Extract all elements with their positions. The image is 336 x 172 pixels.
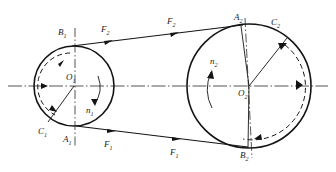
pulley-right-arc-arrowhead-bottom [254, 134, 262, 140]
label-a1: A1 [62, 134, 72, 146]
belt-lower-arrowhead-left [107, 129, 116, 133]
label-a2: A2 [233, 12, 243, 24]
pulley-left-radius-to-c1 [48, 86, 74, 122]
diagram-canvas: B1 O1 n1 C1 A1 A2 C2 n2 [0, 0, 336, 172]
label-c2: C2 [271, 17, 280, 29]
pulley-left-arc-arrowhead-top [58, 60, 64, 67]
label-f2-left: F2 [100, 24, 110, 36]
label-f2-right: F2 [166, 16, 176, 28]
label-n1: n1 [86, 105, 94, 117]
pulley-right-radius-to-b2 [248, 86, 249, 148]
belt-drive-figure: B1 O1 n1 C1 A1 A2 C2 n2 [0, 0, 336, 172]
belt-upper-arrowhead-right [170, 32, 179, 37]
pulley-left-rotation-arrowhead [91, 99, 98, 106]
pulley-left-arc-arrowhead-mid [41, 83, 48, 89]
pulley-right-rotation-arrowhead [207, 70, 214, 79]
belt-lower-span [76, 126, 248, 147]
belt-upper-span [72, 25, 243, 46]
pulley-right-arc-arrowhead-top [278, 43, 287, 50]
label-f1-right: F1 [169, 147, 179, 159]
belt-upper-arrowhead-left [104, 40, 113, 45]
label-o2: O2 [238, 88, 248, 100]
belt-lower-arrowhead-right [172, 137, 181, 141]
label-b2: B2 [240, 150, 249, 162]
label-f1-left: F1 [103, 139, 113, 151]
label-c1: C1 [38, 126, 47, 138]
pulley-left-arc-arrowhead-bottom [49, 105, 57, 112]
label-b1: B1 [58, 27, 67, 39]
pulley-right-arc-arrowhead-mid [296, 80, 303, 90]
pulley-right-radius-to-a2 [241, 26, 249, 86]
label-o1: O1 [66, 72, 76, 84]
label-n2: n2 [210, 56, 218, 68]
